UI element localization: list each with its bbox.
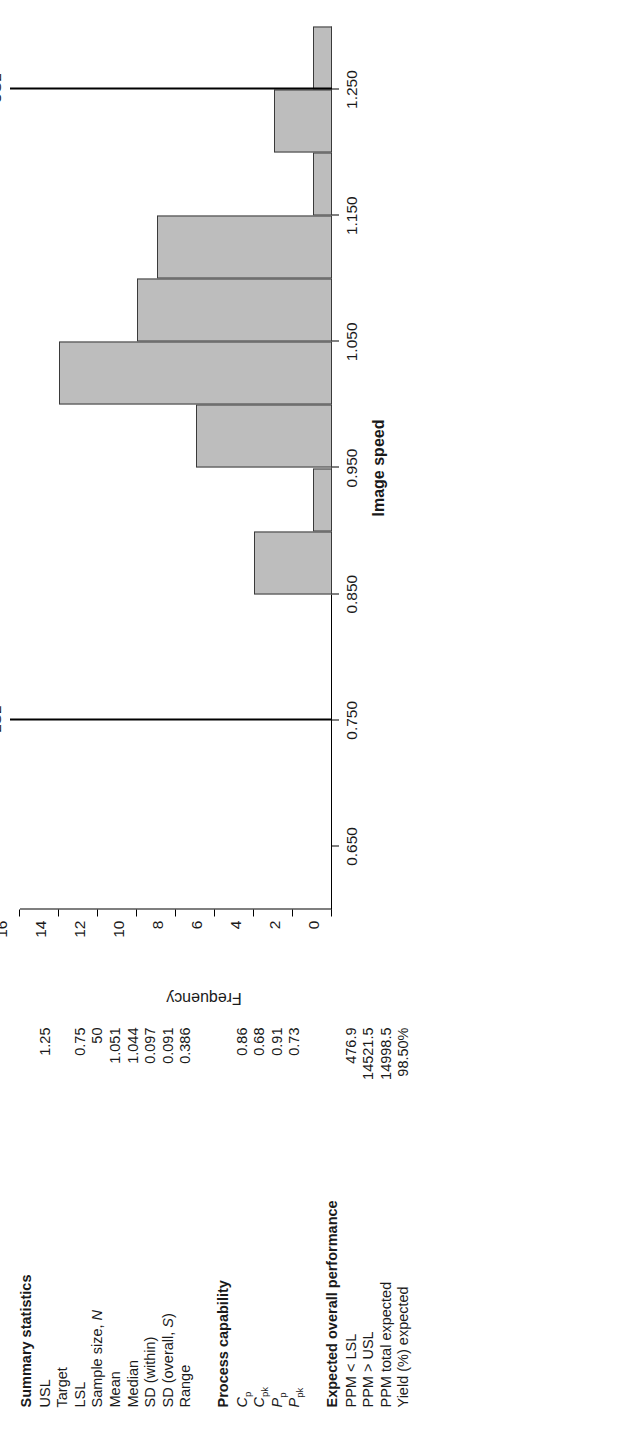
x-tick-label: 0.750 [343,700,361,739]
stat-value: 1.044 [125,1027,143,1063]
x-tick [332,88,339,89]
stat-label: SD (overall, S) [160,1313,178,1407]
stat-value: 50 [89,1027,107,1043]
stat-label: Sample size, N [89,1309,107,1407]
histogram-bar [157,215,333,278]
histogram-bar [313,26,333,89]
y-tick [175,909,176,916]
stat-value: 0.75 [72,1027,90,1055]
process-capability-heading: Process capability [215,1027,233,1407]
histogram-bar [313,468,333,531]
y-tick [292,909,293,916]
table-row: LSL0.75 [72,1027,90,1407]
x-tick-label: 0.850 [343,574,361,613]
table-row: Pp0.91 [269,1027,287,1407]
y-axis-label: Frequency [166,988,242,1006]
stat-label: Yield (%) expected [395,1286,413,1407]
y-tick [136,909,137,916]
stat-label: PPM > USL [360,1331,378,1407]
x-tick [332,845,339,846]
expected-performance-block: Expected overall performance PPM < LSL47… [324,1027,413,1407]
y-tick-label: 12 [71,920,89,937]
spec-limit-label: USL [0,73,5,103]
plot-area: Image speed 02468101214160.6500.7500.850… [20,26,332,909]
capability-histogram: Frequency Image speed 02468101214160.650… [14,20,394,1005]
stat-label: Mean [107,1371,125,1407]
stat-value: 14998.5 [378,1027,396,1079]
table-row: SD (within)0.097 [142,1027,160,1407]
y-tick-label: 14 [32,920,50,937]
stat-label: PPM < LSL [343,1333,361,1407]
stat-value: 0.68 [251,1027,269,1055]
stat-label: Ppk [286,1387,304,1407]
x-tick [332,340,339,341]
y-tick-label: 2 [266,920,284,929]
stat-value: 14521.5 [360,1027,378,1079]
stat-label: Range [177,1364,195,1407]
stat-value: 0.86 [234,1027,252,1055]
summary-statistics-block: Summary statistics USL1.25 Target LSL0.7… [18,1027,195,1407]
stat-value: 476.9 [343,1027,361,1063]
table-row: PPM > USL14521.5 [360,1027,378,1407]
summary-statistics-heading: Summary statistics [18,1027,36,1407]
table-row: Yield (%) expected98.50% [395,1027,413,1407]
x-tick [332,593,339,594]
table-row: Range0.386 [177,1027,195,1407]
stat-value: 0.73 [286,1027,304,1055]
x-tick [332,467,339,468]
stat-label: SD (within) [142,1336,160,1407]
table-row: USL1.25 [37,1027,55,1407]
spec-limit-line-usl: USL [10,87,332,89]
stat-label: USL [37,1379,55,1407]
table-row: Ppk0.73 [286,1027,304,1407]
stat-label: Cpk [251,1386,269,1407]
table-row: Cp0.86 [234,1027,252,1407]
histogram-bar [274,89,333,152]
stat-label: PPM total expected [378,1281,396,1407]
stat-value: 0.91 [269,1027,287,1055]
x-tick-label: 1.250 [343,70,361,109]
expected-performance-heading: Expected overall performance [324,1027,342,1407]
stat-value: 1.051 [107,1027,125,1063]
stat-value: 98.50% [395,1027,413,1076]
rotated-figure-canvas: Summary statistics USL1.25 Target LSL0.7… [0,0,638,1435]
table-row: Mean1.051 [107,1027,125,1407]
table-row: Median1.044 [125,1027,143,1407]
stat-value: 0.386 [177,1027,195,1063]
stat-label: Target [54,1367,72,1407]
x-axis-label: Image speed [370,419,388,516]
table-row: PPM < LSL476.9 [343,1027,361,1407]
x-tick [332,214,339,215]
statistics-panel: Summary statistics USL1.25 Target LSL0.7… [18,1027,433,1407]
x-tick-label: 1.050 [343,322,361,361]
table-row: Sample size, N50 [89,1027,107,1407]
stat-label: Median [125,1359,143,1407]
y-tick [331,909,332,916]
y-tick [97,909,98,916]
x-tick-label: 0.950 [343,448,361,487]
spec-limit-line-lsl: LSL [10,718,332,720]
histogram-bar [137,278,332,341]
x-tick-label: 1.150 [343,196,361,235]
y-tick [19,909,20,916]
y-tick [253,909,254,916]
y-tick [58,909,59,916]
stat-label: Cp [234,1391,252,1407]
histogram-bar [313,152,333,215]
table-row: SD (overall, S)0.091 [160,1027,178,1407]
y-tick-label: 4 [227,920,245,929]
stat-value: 1.25 [37,1027,55,1055]
y-tick-label: 10 [110,920,128,937]
table-row: Target [54,1027,72,1407]
x-tick-label: 0.650 [343,827,361,866]
y-tick [214,909,215,916]
y-tick-label: 8 [149,920,167,929]
stat-label: LSL [72,1381,90,1407]
stat-value: 0.097 [142,1027,160,1063]
stat-value: 0.091 [160,1027,178,1063]
table-row: Cpk0.68 [251,1027,269,1407]
y-tick-label: 0 [305,920,323,929]
stat-label: Pp [269,1392,287,1407]
histogram-bar [196,404,333,467]
y-axis-line [20,908,332,909]
